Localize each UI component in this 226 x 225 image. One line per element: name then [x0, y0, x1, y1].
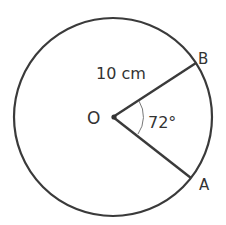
- center-point: [111, 114, 116, 119]
- angle-arc: [138, 101, 143, 134]
- center-label: O: [87, 108, 100, 128]
- circle-sector-diagram: O B A 10 cm 72°: [0, 0, 226, 225]
- radius-label: 10 cm: [96, 64, 146, 83]
- point-a-label: A: [199, 176, 210, 194]
- angle-label: 72°: [148, 113, 176, 132]
- point-b-label: B: [198, 50, 208, 68]
